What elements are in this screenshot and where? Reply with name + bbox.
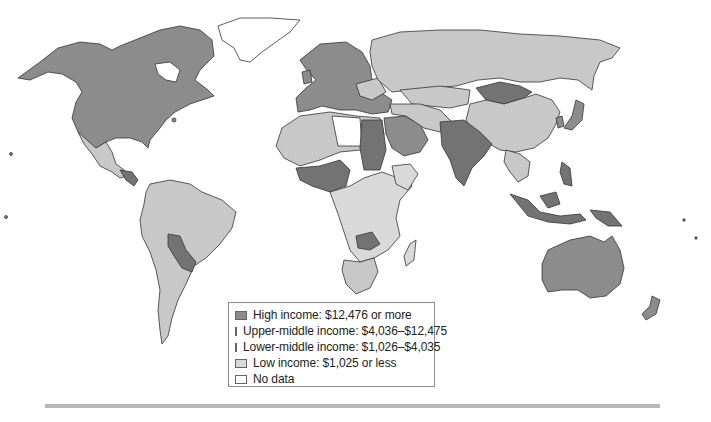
swatch-lower-middle-icon	[235, 343, 237, 352]
legend-item-no-data: No data	[235, 371, 434, 387]
island-bermuda	[172, 118, 176, 122]
legend-label-lower-middle: Lower-middle income: $1,026–$4,035	[243, 340, 440, 354]
legend-label-no-data: No data	[253, 372, 294, 386]
region-korea	[556, 116, 564, 128]
region-southeast-asia	[504, 150, 530, 182]
region-new-guinea	[590, 210, 622, 226]
legend-item-high: High income: $12,476 or more	[235, 307, 434, 323]
region-southern-africa	[342, 258, 378, 294]
region-egypt-sudan	[360, 120, 386, 170]
legend-label-low: Low income: $1,025 or less	[253, 356, 396, 370]
legend-label-high: High income: $12,476 or more	[253, 308, 412, 322]
region-new-zealand	[642, 296, 660, 320]
legend-label-upper-middle: Upper-middle income: $4,036–$12,475	[243, 324, 447, 338]
region-philippines	[560, 162, 572, 186]
region-madagascar	[404, 240, 416, 266]
region-greenland	[218, 18, 300, 62]
region-uk	[302, 70, 312, 84]
island-pacific-2	[683, 219, 685, 221]
swatch-low-icon	[235, 359, 247, 368]
map-legend: High income: $12,476 or more Upper-middl…	[228, 302, 435, 387]
bottom-divider	[45, 404, 660, 408]
legend-item-lower-middle: Lower-middle income: $1,026–$4,035	[235, 339, 434, 355]
island-pacific-3	[695, 237, 697, 239]
region-russia	[370, 30, 620, 92]
region-borneo	[540, 192, 560, 208]
island-hawaii	[10, 153, 13, 156]
region-central-america	[120, 170, 138, 186]
region-north-america	[18, 26, 214, 148]
swatch-no-data-icon	[235, 375, 247, 384]
swatch-high-icon	[235, 311, 247, 320]
region-australia	[542, 236, 624, 298]
island-pacific	[5, 216, 8, 219]
legend-item-low: Low income: $1,025 or less	[235, 355, 434, 371]
region-japan	[564, 100, 584, 130]
swatch-upper-middle-icon	[235, 327, 237, 336]
legend-item-upper-middle: Upper-middle income: $4,036–$12,475	[235, 323, 434, 339]
